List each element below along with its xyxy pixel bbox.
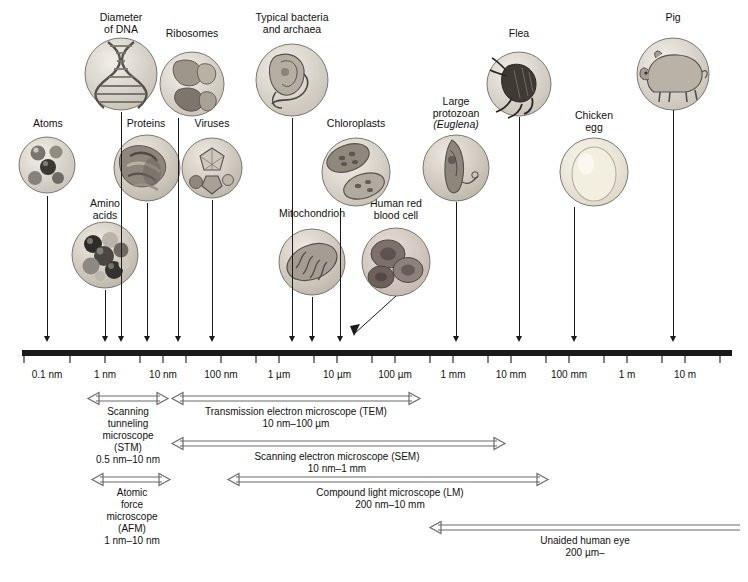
method-label-unaided-eye: Unaided human eye 200 µm– [500, 535, 670, 559]
bar-stm [88, 393, 168, 405]
bar-sem [172, 438, 505, 450]
bar-afm [92, 474, 170, 486]
method-label-sem: Scanning electron microscope (SEM) 10 nm… [222, 451, 452, 475]
method-label-tem: Transmission electron microscope (TEM) 1… [186, 406, 406, 430]
method-label-lm: Compound light microscope (LM) 200 nm–10… [265, 487, 515, 511]
size-scale-diagram: Atoms Amino acids Diameter of DNA Protei… [0, 0, 748, 582]
bar-tem [172, 393, 420, 405]
bar-lm [228, 474, 548, 486]
method-label-afm: Atomic force microscope (AFM) 1 nm–10 nm [82, 487, 182, 547]
method-label-stm: Scanning tunneling microscope (STM) 0.5 … [78, 406, 178, 466]
bar-unaided-eye [430, 522, 740, 534]
